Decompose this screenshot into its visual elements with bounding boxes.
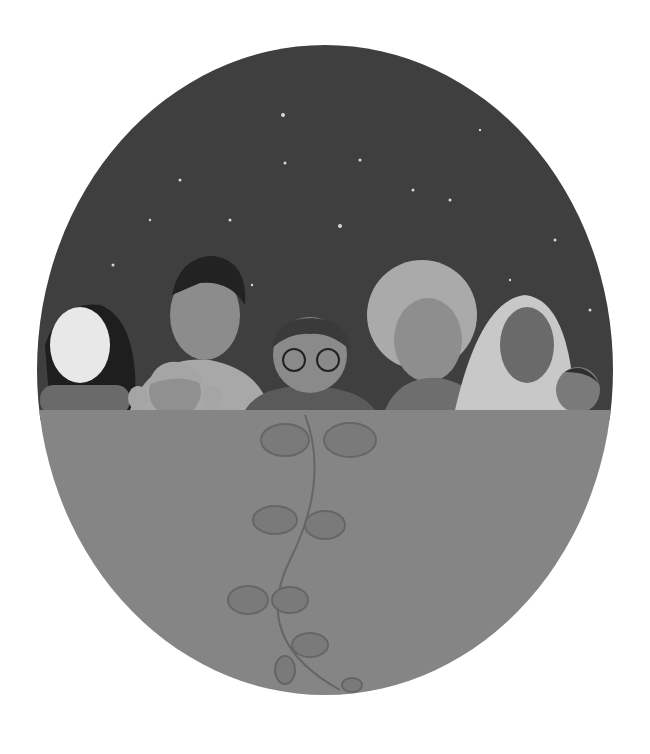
ledge-ground — [0, 410, 650, 754]
illustration — [0, 0, 650, 754]
figure-small-child — [556, 367, 600, 413]
